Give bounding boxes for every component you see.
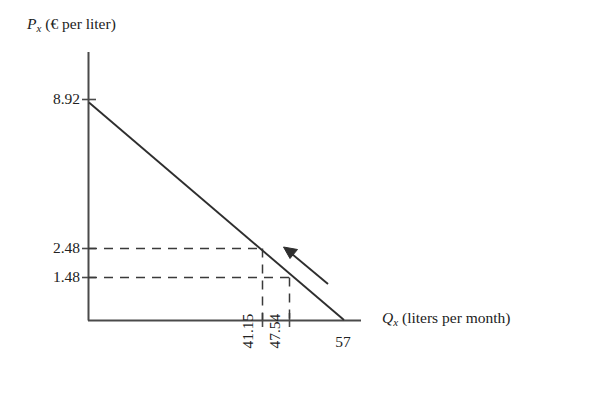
y-tick-label-8.92: 8.92: [18, 91, 80, 107]
y-tick-label-1.48: 1.48: [18, 269, 80, 285]
x-tick-label-57: 57: [313, 334, 373, 350]
demand-curve-figure: Px (€ per liter) Qx (liters per month) 8…: [0, 0, 593, 413]
y-axis-units: (€ per liter): [45, 15, 116, 32]
y-tick-label-2.48: 2.48: [18, 240, 80, 256]
x-tick-label-41.15: 41.15: [240, 314, 256, 349]
y-axis-subscript: x: [36, 22, 41, 34]
x-axis-units: (liters per month): [402, 309, 510, 326]
x-axis-title: Qx (liters per month): [382, 310, 510, 328]
demand-curve: [89, 103, 344, 321]
x-axis-symbol: Q: [382, 309, 393, 326]
x-axis-subscript: x: [393, 316, 398, 328]
y-axis-title: Px (€ per liter): [27, 16, 116, 34]
chart-canvas: [0, 0, 593, 413]
x-tick-label-47.54: 47.54: [267, 314, 283, 349]
